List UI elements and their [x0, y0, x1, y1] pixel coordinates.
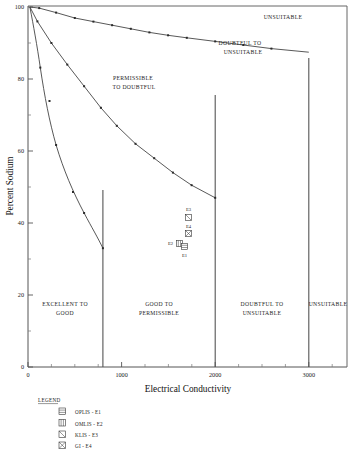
marker — [74, 17, 76, 19]
plot-frame — [28, 6, 347, 367]
legend-symbol-hlines-square — [59, 408, 66, 415]
zone-label-doubtful-unsuitable-line2: UNSUITABLE — [243, 310, 282, 316]
legend-item-omlis-e2[interactable]: OMLIS - E2 — [59, 420, 103, 427]
marker — [50, 42, 52, 44]
marker — [116, 125, 118, 127]
marker — [214, 197, 216, 199]
legend-item-oplis-e1[interactable]: OPLIS - E1 — [59, 408, 101, 415]
legend: LEGEND OPLIS - E1 OMLIS - E2 KLIS - E3 — [38, 397, 103, 449]
data-point-e1[interactable]: E1 — [182, 244, 188, 259]
legend-symbol-vlines-square — [59, 420, 66, 427]
zone-label-excellent-good-line1: EXCELLENT TO — [42, 301, 88, 307]
marker — [83, 212, 85, 214]
marker — [100, 107, 102, 109]
marker — [102, 247, 104, 249]
marker — [92, 21, 94, 23]
x-tick-labels: 0 1000 2000 3000 — [26, 371, 315, 378]
zone-label-permissible-doubtful-line2: TO DOUBTFUL — [112, 84, 155, 90]
marker — [214, 40, 216, 42]
marker — [191, 184, 193, 186]
zone-label-unsuitable-bottom: UNSUITABLE — [309, 301, 348, 307]
data-point-label-e1: E1 — [182, 253, 188, 258]
legend-title: LEGEND — [38, 397, 61, 403]
y-axis-title: Percent Sodium — [5, 156, 15, 216]
zone-label-good-permissible-line1: GOOD TO — [145, 301, 173, 307]
marker — [172, 172, 174, 174]
marker — [83, 85, 85, 87]
x-ticks — [28, 362, 332, 367]
x-tick-label-0: 0 — [26, 371, 29, 378]
zone-label-permissible-doubtful-line1: PERMISSIBLE — [113, 75, 153, 81]
wilcox-diagram-figure: 0 20 40 60 80 100 0 1000 — [0, 0, 360, 452]
x-tick-label-1000: 1000 — [115, 371, 127, 378]
zone-label-excellent-good-line2: GOOD — [56, 310, 74, 316]
curve-permissible-to-doubtful-boundary — [30, 7, 103, 248]
marker — [148, 31, 150, 33]
y-tick-label-20: 20 — [18, 291, 24, 298]
marker — [38, 7, 40, 9]
marker — [49, 100, 51, 102]
marker — [130, 28, 132, 30]
legend-label-gi-e4: GI - E4 — [75, 443, 92, 449]
marker — [55, 144, 57, 146]
sample-data-points: E3 E4 E2 E1 — [168, 207, 192, 258]
data-point-e2[interactable]: E2 — [168, 241, 183, 247]
legend-label-oplis-e1: OPLIS - E1 — [75, 409, 101, 415]
data-point-label-e2: E2 — [168, 241, 174, 246]
zone-label-good-permissible-line2: PERMISSIBLE — [139, 310, 179, 316]
marker — [167, 34, 169, 36]
data-point-e4[interactable]: E4 — [186, 224, 192, 237]
legend-label-omlis-e2: OMLIS - E2 — [75, 421, 103, 427]
curve-doubtful-to-unsuitable-boundary — [30, 7, 215, 198]
zone-label-unsuitable-upper: UNSUITABLE — [264, 14, 303, 20]
marker — [111, 24, 113, 26]
marker — [39, 67, 41, 69]
data-point-e3[interactable]: E3 — [186, 207, 192, 221]
y-tick-label-0: 0 — [21, 363, 24, 370]
y-tick-label-80: 80 — [18, 75, 24, 82]
x-tick-label-2000: 2000 — [209, 371, 221, 378]
legend-label-klis-e3: KLIS - E3 — [75, 432, 98, 438]
marker — [36, 20, 38, 22]
marker — [186, 37, 188, 39]
boundary-curves — [30, 7, 309, 248]
zone-label-doubtful-unsuitable-line2: UNSUITABLE — [224, 49, 263, 55]
upper-zone-labels: UNSUITABLE DOUBTFUL TO UNSUITABLE PERMIS… — [112, 14, 302, 90]
data-point-label-e3: E3 — [186, 207, 192, 212]
bottom-zone-labels: EXCELLENT TO GOOD GOOD TO PERMISSIBLE DO… — [42, 301, 347, 316]
marker — [55, 12, 57, 14]
y-tick-label-100: 100 — [15, 3, 24, 10]
marker — [66, 64, 68, 66]
x-tick-label-3000: 3000 — [303, 371, 315, 378]
zone-label-doubtful-unsuitable-line1: DOUBTFUL TO — [241, 301, 284, 307]
y-tick-label-40: 40 — [18, 219, 24, 226]
zone-dividers — [103, 58, 309, 367]
y-ticks — [28, 7, 33, 367]
legend-item-gi-e4[interactable]: GI - E4 — [59, 442, 92, 449]
x-axis-title: Electrical Conductivity — [145, 384, 232, 394]
data-point-label-e4: E4 — [186, 224, 192, 229]
y-tick-labels: 0 20 40 60 80 100 — [15, 3, 24, 370]
marker — [153, 157, 155, 159]
marker — [135, 143, 137, 145]
legend-item-klis-e3[interactable]: KLIS - E3 — [59, 431, 98, 438]
data-point-e1-symbol — [182, 244, 188, 250]
zone-label-doubtful-unsuitable-line1: DOUBTFUL TO — [219, 40, 262, 46]
marker — [72, 191, 74, 193]
marker — [270, 48, 272, 50]
chart-svg: 0 20 40 60 80 100 0 1000 — [0, 0, 360, 452]
y-tick-label-60: 60 — [18, 147, 24, 154]
